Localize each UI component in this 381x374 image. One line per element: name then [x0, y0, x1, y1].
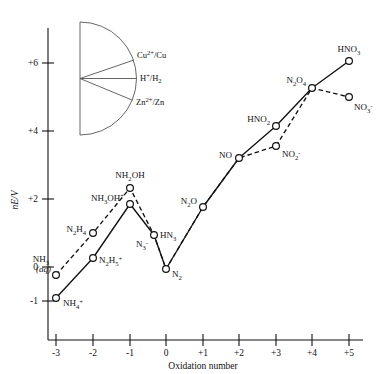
marker-no3-minus[interactable] — [346, 94, 353, 101]
frost-diagram-svg: +6 +4 +2 0 -1 nE/V -3 -2 -1 0 +1 +2 +3 +… — [0, 0, 381, 374]
marker-hn3-n3[interactable] — [151, 232, 158, 239]
y-ticklabel-6: +6 — [28, 58, 38, 68]
label-hno2: HNO2 — [247, 114, 270, 126]
label-nh4-plus: NH4+ — [63, 298, 83, 310]
label-no3-minus: NO3- — [354, 102, 373, 114]
label-nh3oh-plus: NH3OH+ — [91, 192, 124, 205]
x-ticklabel-0: 0 — [164, 348, 169, 358]
label-n3-minus: N3- — [136, 239, 148, 251]
y-ticklabel-neg1: -1 — [30, 296, 38, 306]
frost-diagram-figure: +6 +4 +2 0 -1 nE/V -3 -2 -1 0 +1 +2 +3 +… — [0, 0, 381, 374]
y-ticklabel-2: +2 — [28, 194, 38, 204]
x-ticklabel-4: +4 — [307, 348, 317, 358]
label-nh2oh: NH2OH — [115, 170, 145, 182]
marker-n2h4[interactable] — [90, 230, 97, 237]
marker-n2[interactable] — [163, 266, 170, 273]
inset-label-h: H+/H2 — [140, 72, 162, 84]
label-n2o4: N2O4 — [286, 75, 306, 87]
y-ticklabel-4: +4 — [28, 126, 38, 136]
species-labels-group: NH4+ NH3 (aq) N2H4 N2H5+ NH3OH+ NH2OH N3… — [33, 44, 373, 310]
label-hno3: HNO3 — [338, 44, 362, 56]
marker-n2o4[interactable] — [309, 85, 316, 92]
inset-label-cu: Cu2+/Cu — [137, 49, 167, 60]
marker-nh3-aq[interactable] — [53, 272, 60, 279]
label-no: NO — [219, 150, 232, 160]
x-axis-title: Oxidation number — [168, 361, 238, 371]
inset-radial-cu — [80, 60, 134, 79]
label-n2h4: N2H4 — [66, 224, 86, 236]
inset-slope-reference: Cu2+/Cu H+/H2 Zn2+/Zn — [80, 22, 167, 135]
marker-n2o[interactable] — [200, 204, 207, 211]
label-hn3: HN3 — [160, 230, 177, 242]
x-ticklabel-2: +2 — [234, 348, 244, 358]
marker-no[interactable] — [236, 155, 243, 162]
label-n2o: N2O — [181, 196, 198, 208]
marker-nh4-plus[interactable] — [53, 295, 60, 302]
x-ticklabel-neg1: -1 — [126, 348, 134, 358]
y-axis-title-text: nE/V — [10, 189, 20, 209]
marker-nh2oh[interactable] — [127, 185, 134, 192]
x-ticklabel-1: +1 — [198, 348, 208, 358]
inset-label-zn: Zn2+/Zn — [136, 96, 165, 107]
x-ticklabel-neg3: -3 — [52, 348, 60, 358]
label-n2: N2 — [172, 269, 182, 281]
inset-radial-zn — [80, 79, 132, 101]
label-n2h5-plus: N2H5+ — [99, 255, 123, 267]
marker-no2-minus[interactable] — [273, 143, 280, 150]
marker-n2h5-plus[interactable] — [90, 255, 97, 262]
x-ticklabel-5: +5 — [344, 348, 354, 358]
marker-nh3oh-plus[interactable] — [127, 201, 134, 208]
label-no2-minus: NO2- — [282, 149, 301, 161]
x-ticklabel-3: +3 — [271, 348, 281, 358]
x-ticklabel-neg2: -2 — [89, 348, 97, 358]
label-nh3-aq-state: (aq) — [36, 264, 51, 274]
marker-hno2[interactable] — [273, 123, 280, 130]
y-axis-title: nE/V — [10, 189, 20, 209]
marker-hno3[interactable] — [346, 58, 353, 65]
